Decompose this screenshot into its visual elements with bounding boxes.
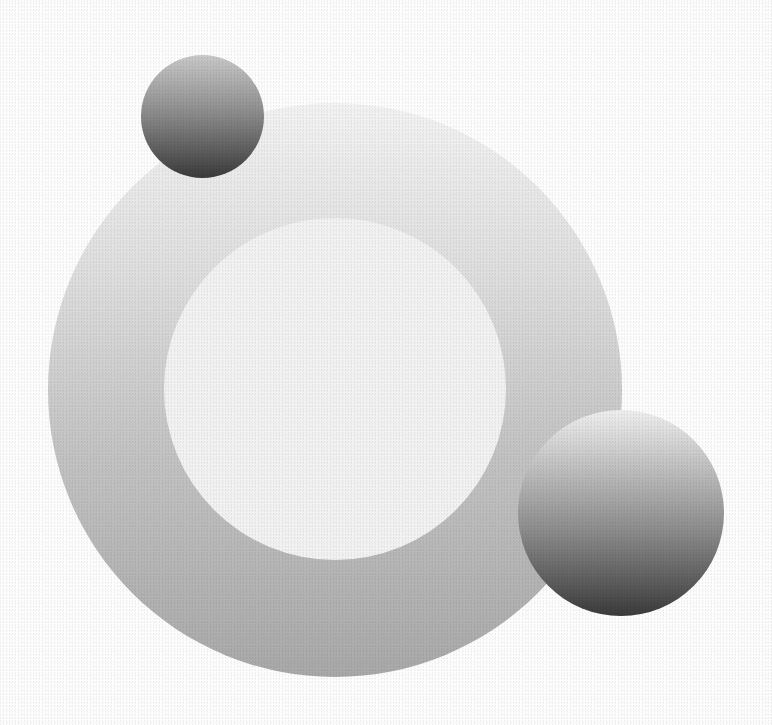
small-sphere (141, 55, 264, 178)
illustration-canvas (0, 0, 772, 725)
large-sphere (518, 410, 724, 616)
inner-disc-circle (164, 218, 506, 560)
